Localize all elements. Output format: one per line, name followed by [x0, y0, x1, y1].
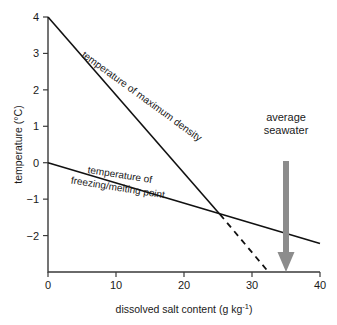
average-seawater-arrow-icon	[278, 161, 295, 272]
freezing-point-label: temperature offreezing/melting point	[70, 162, 168, 201]
y-tick-label: 3	[33, 47, 39, 59]
x-tick-label: 10	[110, 279, 122, 291]
y-tick-label: −2	[26, 230, 39, 242]
average-seawater-label-line: average	[266, 111, 306, 123]
x-tick-label: 40	[314, 279, 326, 291]
chart-figure: 01020304043210−1−2 temperature of maximu…	[0, 0, 337, 325]
average-seawater-label-line: seawater	[264, 124, 309, 136]
x-axis-title-tail: )	[249, 303, 253, 315]
x-tick-label: 20	[178, 279, 190, 291]
x-tick-label: 30	[246, 279, 258, 291]
y-tick-label: 4	[33, 11, 39, 23]
series-line	[220, 214, 267, 270]
y-tick-label: 2	[33, 84, 39, 96]
y-tick-label: 0	[33, 157, 39, 169]
y-axis-title: temperature (°C)	[12, 105, 24, 183]
y-tick-label: 1	[33, 120, 39, 132]
source-credit	[1, 271, 10, 323]
x-axis-title-exponent: -1	[242, 302, 249, 311]
arrow-group	[278, 161, 295, 272]
y-tick-label: −1	[26, 193, 39, 205]
axes-group: 01020304043210−1−2	[26, 11, 326, 291]
average-seawater-label: averageseawater	[264, 111, 309, 136]
max-density-label: temperature of maximum density	[80, 49, 204, 143]
x-axis-title: dissolved salt content (g kg-1)	[116, 302, 253, 316]
x-axis-title-main: dissolved salt content (g kg	[116, 303, 243, 315]
annotations-group: temperature of maximum densitytemperatur…	[70, 49, 309, 200]
chart-canvas: 01020304043210−1−2 temperature of maximu…	[0, 0, 337, 325]
max-density-label-line: temperature of maximum density	[80, 49, 204, 143]
x-tick-label: 0	[45, 279, 51, 291]
